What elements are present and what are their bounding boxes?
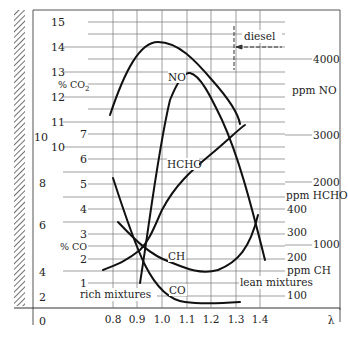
inner-tick: 4 [80, 203, 87, 216]
left-outer-axis: 10 8 6 4 2 0 [34, 131, 48, 328]
co2-tick: 13 [51, 66, 65, 79]
co2-tick: 15 [51, 16, 65, 29]
ch-curve-label: CH [168, 250, 185, 262]
co2-tick: 12 [51, 91, 65, 104]
left-outer-tick: 8 [39, 177, 46, 190]
ch-curve [118, 215, 258, 272]
left-outer-tick: 6 [39, 219, 46, 232]
no-curve-label: NO [168, 71, 186, 83]
hcho-tick: 400 [287, 203, 307, 215]
no-tick: 1000 [313, 238, 340, 250]
no-axis-title: ppm NO [292, 84, 337, 96]
x-tick: 0.8 [105, 313, 122, 325]
inner-tick: 5 [80, 178, 87, 191]
annotations: diesel rich mixtures lean mixtures NO HC… [79, 30, 313, 301]
x-tick: 1.3 [228, 313, 245, 325]
co2-tick: 14 [51, 41, 65, 54]
no-curve [140, 73, 265, 283]
right-axes: 4000 ppm NO 3000 2000 ppm HCHO 400 300 1… [286, 53, 348, 301]
inner-tick: 7 [80, 128, 87, 141]
inner-tick: 2 [80, 253, 87, 266]
left-outer-tick: 0 [39, 315, 46, 328]
ch-axis-title: ppm CH [287, 264, 331, 276]
co-axis-title: % CO [60, 241, 87, 252]
lean-mixtures-label: lean mixtures [240, 276, 313, 288]
no-tick: 2000 [313, 176, 340, 188]
no-tick: 3000 [313, 129, 340, 141]
co-curve-label: CO [169, 284, 186, 296]
x-tick: 1.1 [179, 313, 196, 325]
inner-tick: 6 [80, 153, 87, 166]
x-axis-label: λ [328, 314, 335, 326]
hcho-axis-title: ppm HCHO [286, 189, 348, 201]
inner-tick: 3 [80, 228, 87, 241]
co2-tick: 10 [51, 141, 65, 154]
rich-mixtures-label: rich mixtures [80, 288, 151, 300]
x-tick: 1.2 [203, 313, 220, 325]
left-outer-tick: 10 [34, 131, 48, 144]
x-tick: 1.0 [154, 313, 171, 325]
hcho-tick: 300 [287, 226, 307, 238]
x-tick: 1.4 [252, 313, 269, 325]
x-tick: 0.9 [129, 313, 146, 325]
hatched-wall [14, 10, 25, 306]
hcho-curve-label: HCHO [167, 158, 202, 170]
x-axis: 0.8 0.9 1.0 1.1 1.2 1.3 1.4 λ [105, 313, 335, 326]
emissions-chart: 10 8 6 4 2 0 15 14 13 12 11 10 % CO2 7 6… [0, 0, 348, 337]
co2-tick: 11 [51, 116, 65, 129]
diesel-label: diesel [244, 30, 276, 42]
no-tick: 4000 [313, 53, 340, 65]
left-outer-tick: 4 [39, 266, 46, 279]
left-outer-tick: 2 [39, 291, 46, 304]
hcho-tick: 100 [287, 289, 307, 301]
hcho-tick: 200 [287, 251, 307, 263]
